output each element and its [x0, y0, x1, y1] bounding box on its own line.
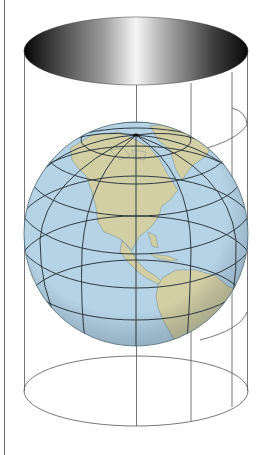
cylinder-top-shaded-ellipse [24, 17, 248, 85]
north-pole-marker [133, 134, 139, 137]
cylinder-bottom-ellipse [24, 356, 248, 426]
globe [16, 120, 256, 360]
projection-diagram [0, 0, 274, 455]
